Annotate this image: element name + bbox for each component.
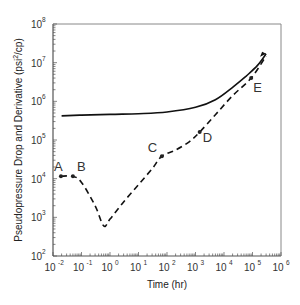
- data-curves: [61, 52, 266, 227]
- y-tick-exponent: 7: [42, 55, 46, 62]
- x-tick-exponent: -1: [87, 259, 93, 266]
- x-tick-label: 10: [158, 262, 170, 273]
- derivative-curve: [61, 56, 266, 227]
- x-tick-exponent: -2: [58, 259, 64, 266]
- annotation-label-d: D: [203, 130, 212, 145]
- x-tick-label: 10: [187, 262, 199, 273]
- y-tick-label: 10: [31, 135, 43, 146]
- annotation-label-b: B: [77, 159, 86, 174]
- annotation-label-c: C: [148, 140, 157, 155]
- x-tick-exponent: 6: [286, 259, 290, 266]
- y-tick-exponent: 3: [42, 209, 46, 216]
- x-tick-label: 10: [44, 262, 56, 273]
- x-tick-exponent: 3: [201, 259, 205, 266]
- annotation-point-c: [160, 154, 164, 158]
- y-tick-exponent: 4: [42, 171, 46, 178]
- point-annotations: ABCDE: [54, 76, 262, 178]
- x-tick-label: 10: [244, 262, 256, 273]
- pressure-drop-curve: [62, 54, 267, 116]
- minor-ticks: [53, 24, 281, 256]
- x-axis-title: Time (hr): [147, 279, 187, 290]
- y-tick-exponent: 2: [42, 248, 46, 255]
- y-tick-exponent: 5: [42, 132, 46, 139]
- x-tick-exponent: 1: [144, 259, 148, 266]
- x-tick-label: 10: [272, 262, 284, 273]
- annotation-label-a: A: [54, 159, 63, 174]
- y-axis-title: Pseudopressure Drop and Derivative (psi2…: [12, 38, 24, 241]
- log-log-chart: 10-210-1100101102103104105106 1021031041…: [0, 0, 300, 305]
- x-tick-label: 10: [73, 262, 85, 273]
- y-tick-label: 10: [31, 174, 43, 185]
- y-tick-exponent: 6: [42, 93, 46, 100]
- x-tick-exponent: 2: [172, 259, 176, 266]
- x-tick-label: 10: [215, 262, 227, 273]
- x-axis-tick-labels: 10-210-1100101102103104105106: [44, 259, 290, 273]
- x-tick-exponent: 4: [229, 259, 233, 266]
- x-tick-exponent: 5: [258, 259, 262, 266]
- y-tick-label: 10: [31, 19, 43, 30]
- y-tick-label: 10: [31, 96, 43, 107]
- plot-frame: [53, 24, 281, 256]
- annotation-point-d: [198, 130, 202, 134]
- x-tick-exponent: 0: [115, 259, 119, 266]
- annotation-label-e: E: [253, 80, 262, 95]
- y-axis-tick-labels: 102103104105106107108: [31, 16, 46, 262]
- y-tick-label: 10: [31, 251, 43, 262]
- y-tick-exponent: 8: [42, 16, 46, 23]
- y-tick-label: 10: [31, 212, 43, 223]
- y-tick-label: 10: [31, 58, 43, 69]
- x-tick-label: 10: [101, 262, 113, 273]
- x-tick-label: 10: [130, 262, 142, 273]
- annotation-point-a: [59, 174, 63, 178]
- annotation-point-b: [71, 174, 75, 178]
